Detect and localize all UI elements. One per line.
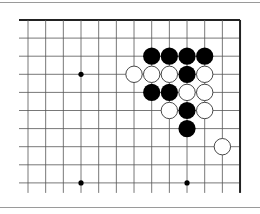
- white-stone: [161, 66, 177, 82]
- black-stone: [178, 120, 195, 137]
- white-stone: [197, 84, 213, 100]
- white-stone: [214, 139, 230, 155]
- star-point-icon: [184, 180, 189, 185]
- star-point-icon: [78, 72, 83, 77]
- black-stone: [161, 84, 178, 101]
- black-stone: [143, 48, 160, 65]
- star-point-icon: [78, 180, 83, 185]
- black-stone: [178, 66, 195, 83]
- black-stone: [178, 102, 195, 119]
- black-stone: [196, 48, 213, 65]
- black-stone: [178, 48, 195, 65]
- white-stone: [126, 66, 142, 82]
- white-stone: [161, 102, 177, 118]
- white-stone: [197, 102, 213, 118]
- white-stone: [179, 84, 195, 100]
- white-stone: [197, 66, 213, 82]
- white-stone: [143, 66, 159, 82]
- black-stone: [161, 48, 178, 65]
- black-stone: [143, 84, 160, 101]
- go-board: [0, 0, 260, 214]
- stones: [126, 48, 231, 155]
